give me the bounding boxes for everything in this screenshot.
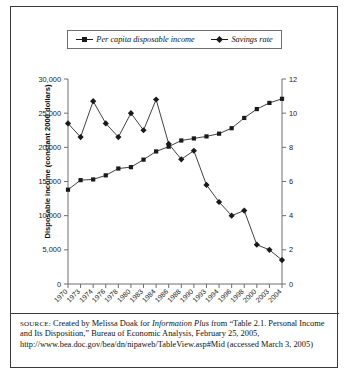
square-marker-icon bbox=[116, 166, 120, 170]
data-line-savings bbox=[68, 100, 282, 261]
square-marker-icon bbox=[141, 158, 145, 162]
chart-svg: 30,00025,00020,00015,00010,0005,00001210… bbox=[11, 7, 339, 312]
x-tick-label: 1988 bbox=[166, 288, 182, 304]
x-tick-label: 1994 bbox=[204, 288, 220, 304]
data-series-group bbox=[65, 96, 285, 263]
diamond-marker-icon bbox=[191, 148, 197, 154]
y-left-tick-label: 15,000 bbox=[38, 177, 61, 186]
x-tick-label: 1993 bbox=[191, 288, 207, 304]
chart-plot-area: Per capita disposable income Savings rat… bbox=[11, 7, 339, 312]
x-tick-label: 2003 bbox=[254, 288, 270, 304]
x-tick-label: 1986 bbox=[153, 288, 169, 304]
square-marker-icon bbox=[204, 134, 208, 138]
square-marker-icon bbox=[129, 165, 133, 169]
x-tick-label: 2004 bbox=[267, 288, 283, 304]
source-prefix: SOURCE: bbox=[20, 320, 51, 328]
x-tick-label: 1984 bbox=[141, 288, 157, 304]
square-marker-icon bbox=[217, 132, 221, 136]
y-right-tick-label: 2 bbox=[289, 245, 293, 254]
x-tick-label: 1978 bbox=[103, 288, 119, 304]
y-left-tick-label: 25,000 bbox=[38, 109, 61, 118]
x-tick-label: 1980 bbox=[116, 288, 132, 304]
diamond-marker-icon bbox=[140, 127, 146, 133]
y-left-tick-label: 30,000 bbox=[38, 75, 61, 84]
square-marker-icon bbox=[230, 126, 234, 130]
square-marker-icon bbox=[280, 97, 284, 101]
x-tick-label: 1973 bbox=[65, 288, 81, 304]
y-left-tick-label: 10,000 bbox=[38, 211, 61, 220]
y-right-tick-label: 10 bbox=[289, 109, 297, 118]
square-marker-icon bbox=[154, 149, 158, 153]
y-left-tick-label: 20,000 bbox=[38, 143, 61, 152]
square-marker-icon bbox=[242, 116, 246, 120]
y-right-tick-label: 0 bbox=[289, 280, 293, 289]
square-marker-icon bbox=[192, 136, 196, 140]
source-italic-1: Information Plus bbox=[152, 319, 209, 328]
diamond-marker-icon bbox=[153, 96, 159, 102]
x-tick-label: 2000 bbox=[242, 288, 258, 304]
diamond-marker-icon bbox=[254, 242, 260, 248]
square-marker-icon bbox=[91, 177, 95, 181]
data-line-income bbox=[68, 99, 282, 190]
y-left-tick-label: 0 bbox=[57, 280, 61, 289]
diamond-marker-icon bbox=[128, 110, 134, 116]
square-marker-icon bbox=[104, 173, 108, 177]
x-tick-label: 1996 bbox=[216, 288, 232, 304]
square-marker-icon bbox=[255, 107, 259, 111]
diamond-marker-icon bbox=[90, 98, 96, 104]
figure-container: Per capita disposable income Savings rat… bbox=[10, 6, 338, 368]
y-left-tick-label: 5,000 bbox=[43, 245, 62, 254]
source-note: SOURCE: Created by Melissa Doak for Info… bbox=[11, 313, 339, 368]
y-right-tick-label: 12 bbox=[289, 75, 297, 84]
x-tick-label: 1990 bbox=[179, 288, 195, 304]
x-tick-label: 1998 bbox=[229, 288, 245, 304]
source-text-1: Created by Melissa Doak for bbox=[51, 319, 152, 328]
square-marker-icon bbox=[78, 178, 82, 182]
square-marker-icon bbox=[267, 101, 271, 105]
x-tick-label: 1974 bbox=[78, 288, 94, 304]
x-tick-label: 1983 bbox=[128, 288, 144, 304]
x-tick-label: 1970 bbox=[53, 288, 69, 304]
x-tick-label: 1976 bbox=[91, 288, 107, 304]
y-right-tick-label: 6 bbox=[289, 177, 293, 186]
square-marker-icon bbox=[66, 188, 70, 192]
diamond-marker-icon bbox=[241, 207, 247, 213]
square-marker-icon bbox=[179, 138, 183, 142]
diamond-marker-icon bbox=[203, 182, 209, 188]
y-right-tick-label: 4 bbox=[289, 211, 293, 220]
y-right-tick-label: 8 bbox=[289, 143, 293, 152]
